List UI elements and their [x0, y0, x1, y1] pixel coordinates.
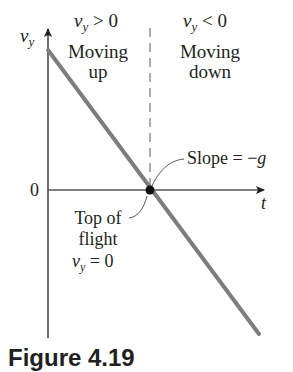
left-up-label: up	[89, 61, 108, 82]
x-axis-label: t	[261, 193, 267, 213]
right-down-label: down	[189, 61, 232, 82]
top-leader-line	[129, 196, 147, 218]
figure-caption: Figure 4.19	[8, 344, 135, 372]
right-condition-label: vy < 0	[183, 10, 227, 34]
left-condition-label: vy > 0	[74, 10, 118, 34]
zero-tick-label: 0	[30, 180, 39, 200]
right-moving-label: Moving	[180, 41, 241, 62]
top-of-flight-label: Top of	[74, 208, 121, 228]
slope-leader-line	[152, 159, 184, 186]
y-axis-label: vy	[20, 25, 34, 49]
top-velocity-zero-label: vy = 0	[72, 251, 113, 274]
flight-label: flight	[79, 229, 118, 249]
top-of-flight-point	[146, 186, 155, 195]
slope-label: Slope = −g	[187, 148, 266, 168]
left-moving-label: Moving	[68, 41, 129, 62]
